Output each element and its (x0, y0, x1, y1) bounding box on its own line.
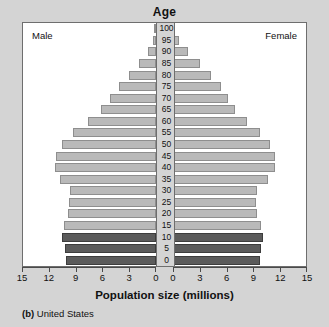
x-tick-label-3: 3 (118, 273, 140, 283)
age-tick-label-75: 75 (157, 82, 176, 91)
bar-male-age-10 (62, 233, 156, 242)
bar-female-age-5 (173, 244, 261, 253)
age-tick-label-100: 100 (157, 24, 176, 33)
x-tick-label-12: 12 (38, 273, 60, 283)
bar-female-age-25 (173, 198, 256, 207)
bar-female-age-10 (173, 233, 263, 242)
age-tick-label-10: 10 (157, 233, 176, 242)
bar-female-age-45 (173, 152, 275, 161)
x-tick-label-0: 0 (162, 273, 184, 283)
bar-female-age-50 (173, 140, 270, 149)
x-tick-label-9: 9 (242, 273, 264, 283)
bar-male-age-60 (88, 117, 156, 126)
x-tick-label-6: 6 (216, 273, 238, 283)
x-tick-label-15: 15 (11, 273, 33, 283)
age-tick-label-50: 50 (157, 140, 176, 149)
age-tick-label-0: 0 (157, 256, 176, 265)
bar-female-age-20 (173, 209, 257, 218)
bar-male-age-15 (64, 221, 156, 230)
bar-male-age-65 (101, 105, 156, 114)
age-tick-label-25: 25 (157, 198, 176, 207)
age-tick-label-85: 85 (157, 59, 176, 68)
age-tick-label-15: 15 (157, 221, 176, 230)
population-pyramid-figure: Age Male Female 051015202530354045505560… (0, 0, 329, 327)
female-x-axis: 03691215 (173, 267, 307, 273)
bar-male-age-45 (56, 152, 156, 161)
age-tick-label-60: 60 (157, 117, 176, 126)
x-tick-label-6: 6 (91, 273, 113, 283)
male-x-axis: 15129630 (22, 267, 156, 273)
bar-female-age-75 (173, 82, 221, 91)
x-tick-label-15: 15 (296, 273, 318, 283)
bar-female-age-65 (173, 105, 235, 114)
bar-female-age-55 (173, 128, 260, 137)
chart-title: Age (0, 5, 329, 19)
bar-male-age-20 (68, 209, 156, 218)
caption-text: United States (37, 308, 94, 319)
bar-female-age-70 (173, 94, 228, 103)
age-tick-label-45: 45 (157, 152, 176, 161)
age-tick-label-5: 5 (157, 244, 176, 253)
axis-line (173, 267, 307, 268)
bar-female-age-30 (173, 186, 257, 195)
bar-female-age-85 (173, 59, 200, 68)
bar-male-age-80 (129, 71, 156, 80)
axis-line (22, 267, 156, 268)
age-tick-label-20: 20 (157, 209, 176, 218)
bar-male-age-75 (119, 82, 156, 91)
x-tick-label-9: 9 (65, 273, 87, 283)
age-tick-label-35: 35 (157, 175, 176, 184)
bar-male-age-70 (110, 94, 156, 103)
age-tick-label-70: 70 (157, 94, 176, 103)
bar-male-age-55 (73, 128, 156, 137)
bar-male-age-50 (62, 140, 156, 149)
female-panel-label: Female (265, 30, 297, 41)
x-tick-label-3: 3 (189, 273, 211, 283)
male-panel: Male (23, 23, 156, 266)
figure-caption: (b) United States (22, 308, 94, 319)
caption-prefix: (b) (22, 308, 34, 319)
x-tick-label-12: 12 (269, 273, 291, 283)
bar-female-age-0 (173, 256, 260, 265)
bar-female-age-15 (173, 221, 261, 230)
bar-male-age-35 (60, 175, 156, 184)
age-tick-label-65: 65 (157, 105, 176, 114)
x-axis-title: Population size (millions) (0, 289, 329, 301)
age-tick-label-90: 90 (157, 47, 176, 56)
bar-male-age-0 (66, 256, 156, 265)
age-tick-label-55: 55 (157, 128, 176, 137)
female-panel: Female (173, 23, 306, 266)
bar-male-age-90 (148, 47, 156, 56)
bar-female-age-40 (173, 163, 275, 172)
age-tick-label-95: 95 (157, 36, 176, 45)
bar-male-age-5 (65, 244, 156, 253)
bar-female-age-60 (173, 117, 247, 126)
bar-male-age-40 (55, 163, 156, 172)
bar-female-age-35 (173, 175, 268, 184)
age-axis-strip: 0510152025303540455055606570758085909510… (156, 23, 175, 266)
age-tick-label-30: 30 (157, 186, 176, 195)
age-tick-label-40: 40 (157, 163, 176, 172)
male-panel-label: Male (32, 30, 53, 41)
bar-male-age-85 (139, 59, 156, 68)
age-tick-label-80: 80 (157, 71, 176, 80)
bar-female-age-80 (173, 71, 211, 80)
plot-area: Male Female 0510152025303540455055606570… (22, 22, 307, 267)
bar-male-age-25 (69, 198, 156, 207)
bar-male-age-30 (70, 186, 156, 195)
